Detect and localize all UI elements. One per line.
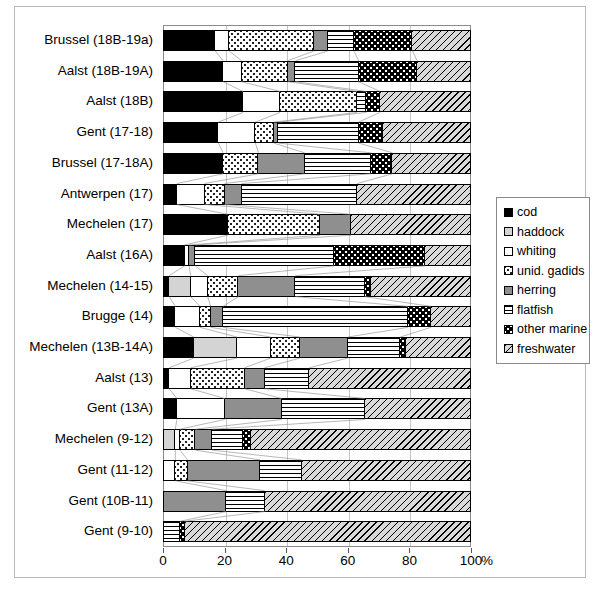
stacked-bar[interactable] — [163, 460, 471, 481]
bar-segment-cod[interactable] — [163, 30, 215, 51]
bar-segment-whiting[interactable] — [163, 460, 175, 481]
bar-segment-unid-gadids[interactable] — [223, 153, 258, 174]
stacked-bar[interactable] — [163, 429, 471, 450]
bar-segment-unid-gadids[interactable] — [191, 368, 245, 389]
bar-segment-herring[interactable] — [288, 61, 296, 82]
bar-segment-flatfish[interactable] — [223, 306, 408, 327]
stacked-bar[interactable] — [163, 91, 471, 112]
bar-segment-freshwater[interactable] — [412, 30, 471, 51]
bar-segment-whiting[interactable] — [175, 306, 200, 327]
bar-segment-freshwater[interactable] — [383, 122, 471, 143]
bar-segment-unid-gadids[interactable] — [280, 91, 357, 112]
stacked-bar[interactable] — [163, 306, 471, 327]
bar-segment-flatfish[interactable] — [295, 61, 358, 82]
bar-segment-other-marine[interactable] — [334, 245, 425, 266]
legend-item[interactable]: herring — [504, 283, 583, 297]
bar-segment-flatfish[interactable] — [163, 521, 180, 542]
bar-segment-freshwater[interactable] — [265, 491, 471, 512]
bar-segment-flatfish[interactable] — [212, 429, 243, 450]
bar-segment-freshwater[interactable] — [406, 337, 471, 358]
bar-segment-herring[interactable] — [225, 398, 282, 419]
bar-segment-cod[interactable] — [163, 398, 177, 419]
bar-segment-flatfish[interactable] — [348, 337, 400, 358]
bar-segment-unid-gadids[interactable] — [255, 122, 273, 143]
bar-segment-whiting[interactable] — [243, 91, 280, 112]
stacked-bar[interactable] — [163, 337, 471, 358]
legend-item[interactable]: freshwater — [504, 342, 583, 356]
bar-segment-whiting[interactable] — [177, 398, 225, 419]
bar-segment-freshwater[interactable] — [357, 184, 471, 205]
bar-segment-unid-gadids[interactable] — [271, 337, 300, 358]
bar-segment-cod[interactable] — [163, 306, 175, 327]
bar-segment-freshwater[interactable] — [417, 61, 471, 82]
bar-segment-unid-gadids[interactable] — [205, 184, 225, 205]
bar-segment-herring[interactable] — [238, 276, 295, 297]
stacked-bar[interactable] — [163, 184, 471, 205]
legend-item[interactable]: cod — [504, 205, 583, 219]
bar-segment-flatfish[interactable] — [295, 276, 364, 297]
stacked-bar[interactable] — [163, 214, 471, 235]
bar-segment-unid-gadids[interactable] — [229, 30, 314, 51]
bar-segment-flatfish[interactable] — [357, 91, 366, 112]
bar-segment-other-marine[interactable] — [359, 122, 384, 143]
stacked-bar[interactable] — [163, 30, 471, 51]
bar-segment-cod[interactable] — [163, 122, 218, 143]
bar-segment-other-marine[interactable] — [359, 61, 418, 82]
bar-segment-unid-gadids[interactable] — [242, 61, 288, 82]
bar-segment-flatfish[interactable] — [305, 153, 371, 174]
bar-segment-herring[interactable] — [225, 184, 242, 205]
bar-segment-other-marine[interactable] — [354, 30, 413, 51]
bar-segment-herring[interactable] — [300, 337, 348, 358]
bar-segment-freshwater[interactable] — [425, 245, 471, 266]
legend-item[interactable]: unid. gadids — [504, 264, 583, 278]
bar-segment-whiting[interactable] — [218, 122, 255, 143]
bar-segment-herring[interactable] — [320, 214, 351, 235]
bar-segment-other-marine[interactable] — [408, 306, 431, 327]
bar-segment-unid-gadids[interactable] — [175, 460, 187, 481]
bar-segment-whiting[interactable] — [177, 184, 205, 205]
bar-segment-haddock[interactable] — [163, 429, 175, 450]
bar-segment-other-marine[interactable] — [366, 91, 380, 112]
stacked-bar[interactable] — [163, 276, 471, 297]
bar-segment-flatfish[interactable] — [278, 122, 358, 143]
bar-segment-freshwater[interactable] — [371, 276, 471, 297]
stacked-bar[interactable] — [163, 398, 471, 419]
stacked-bar[interactable] — [163, 153, 471, 174]
bar-segment-whiting[interactable] — [237, 337, 271, 358]
bar-segment-freshwater[interactable] — [251, 429, 471, 450]
legend-item[interactable]: other marine — [504, 322, 583, 336]
bar-segment-unid-gadids[interactable] — [208, 276, 239, 297]
bar-segment-flatfish[interactable] — [242, 184, 358, 205]
bar-segment-whiting[interactable] — [191, 276, 208, 297]
bar-segment-haddock[interactable] — [169, 276, 191, 297]
stacked-bar[interactable] — [163, 368, 471, 389]
bar-segment-herring[interactable] — [245, 368, 265, 389]
bar-segment-flatfish[interactable] — [265, 368, 310, 389]
bar-segment-cod[interactable] — [163, 214, 228, 235]
bar-segment-whiting[interactable] — [169, 368, 191, 389]
bar-segment-whiting[interactable] — [223, 61, 241, 82]
stacked-bar[interactable] — [163, 245, 471, 266]
bar-segment-cod[interactable] — [163, 337, 194, 358]
stacked-bar[interactable] — [163, 521, 471, 542]
bar-segment-herring[interactable] — [195, 429, 212, 450]
bar-segment-freshwater[interactable] — [351, 214, 471, 235]
bar-segment-unid-gadids[interactable] — [180, 429, 195, 450]
bar-segment-whiting[interactable] — [215, 30, 229, 51]
stacked-bar[interactable] — [163, 122, 471, 143]
bar-segment-freshwater[interactable] — [392, 153, 471, 174]
legend-item[interactable]: haddock — [504, 225, 583, 239]
bar-segment-flatfish[interactable] — [328, 30, 354, 51]
stacked-bar[interactable] — [163, 61, 471, 82]
bar-segment-herring[interactable] — [163, 491, 226, 512]
bar-segment-herring[interactable] — [211, 306, 223, 327]
bar-segment-freshwater[interactable] — [380, 91, 471, 112]
bar-segment-freshwater[interactable] — [302, 460, 471, 481]
bar-segment-cod[interactable] — [163, 153, 223, 174]
legend-item[interactable]: whiting — [504, 244, 583, 258]
bar-segment-flatfish[interactable] — [226, 491, 265, 512]
bar-segment-herring[interactable] — [258, 153, 304, 174]
bar-segment-herring[interactable] — [188, 460, 260, 481]
bar-segment-freshwater[interactable] — [309, 368, 471, 389]
bar-segment-unid-gadids[interactable] — [228, 214, 320, 235]
